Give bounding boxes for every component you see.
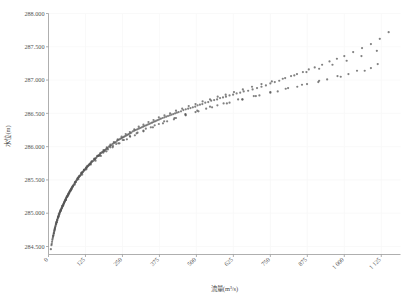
y-tick-label: 284.500	[24, 243, 44, 250]
y-tick-label: 286.500	[24, 110, 44, 117]
gridlines	[49, 14, 401, 255]
x-tick-label: 1 125	[367, 256, 382, 271]
x-tick-label: 125	[75, 256, 87, 268]
y-tick-label: 287.000	[24, 76, 44, 83]
x-axis-title: 流量(m³/s)	[211, 284, 238, 293]
y-tick-label: 288.000	[24, 10, 44, 17]
chart-svg: 284.500285.000285.500286.000286.500287.0…	[0, 0, 413, 299]
y-tick-label: 285.500	[24, 176, 44, 183]
y-axis-title-text: 水位(m)	[3, 125, 12, 146]
y-tick-label: 287.500	[24, 43, 44, 50]
x-tick-label: 250	[112, 256, 124, 268]
x-axis-title-text: 流量(m³/s)	[211, 284, 238, 293]
y-tick-label: 286.000	[24, 143, 44, 150]
y-tick-label: 285.000	[24, 209, 44, 216]
y-axis-tick-labels: 284.500285.000285.500286.000286.500287.0…	[24, 10, 44, 250]
x-axis-tick-labels: 01252503755006257508751 0001 125	[42, 256, 382, 271]
rating-curve-chart: 284.500285.000285.500286.000286.500287.0…	[0, 0, 413, 299]
x-tick-label: 500	[186, 256, 198, 268]
x-tick-label: 625	[223, 256, 235, 268]
tick-marks	[46, 14, 381, 258]
y-axis-title: 水位(m)	[3, 125, 12, 146]
x-tick-label: 1 000	[330, 256, 345, 271]
x-tick-label: 875	[297, 256, 309, 268]
x-tick-label: 375	[149, 256, 161, 268]
scatter-points	[50, 31, 390, 250]
x-tick-label: 750	[260, 256, 272, 268]
axis-lines	[49, 14, 401, 255]
